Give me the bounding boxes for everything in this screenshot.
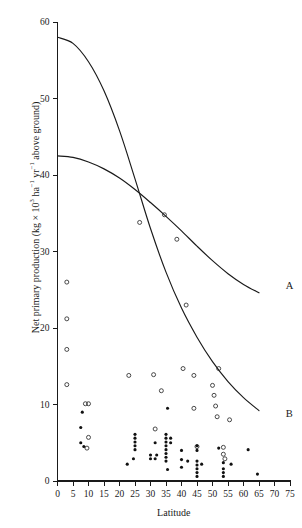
data-point-filled: [149, 457, 152, 460]
y-tick-label-30: 30: [40, 247, 50, 257]
fitted-curve-b: [58, 37, 260, 410]
figure-container: 0102030405060051015202530354045505560657…: [0, 0, 302, 528]
data-point-filled: [195, 475, 198, 478]
data-point-filled: [222, 471, 225, 474]
data-point-open: [214, 404, 218, 408]
y-tick-label-20: 20: [40, 323, 50, 333]
data-point-filled: [133, 440, 136, 443]
data-point-filled: [247, 448, 250, 451]
x-tick-label-15: 15: [99, 489, 109, 499]
data-point-filled: [169, 437, 172, 440]
data-point-filled: [164, 440, 167, 443]
data-point-filled: [195, 449, 198, 452]
chart-canvas: 0102030405060051015202530354045505560657…: [0, 0, 302, 528]
data-point-filled: [133, 437, 136, 440]
y-tick-label-0: 0: [45, 476, 50, 486]
data-point-filled: [195, 444, 198, 447]
data-point-filled: [164, 456, 167, 459]
data-point-open: [65, 317, 69, 321]
data-point-filled: [222, 461, 225, 464]
x-tick-label-65: 65: [254, 489, 264, 499]
x-tick-label-60: 60: [239, 489, 249, 499]
data-point-filled: [133, 433, 136, 436]
data-point-open: [153, 427, 157, 431]
fitted-curve-a: [58, 156, 260, 293]
x-tick-label-10: 10: [84, 489, 94, 499]
x-tick-label-30: 30: [146, 489, 156, 499]
data-point-filled: [166, 468, 169, 471]
x-tick-label-50: 50: [208, 489, 218, 499]
data-points-group: [65, 213, 259, 478]
data-point-open: [215, 415, 219, 419]
y-axis-title-mid-2: yr: [30, 169, 41, 180]
x-tick-label-5: 5: [71, 489, 76, 499]
data-point-filled: [222, 475, 225, 478]
data-point-open: [65, 280, 69, 284]
x-tick-label-20: 20: [115, 489, 125, 499]
data-point-filled: [186, 460, 189, 463]
x-tick-label-0: 0: [55, 489, 60, 499]
data-point-filled: [79, 426, 82, 429]
data-point-filled: [81, 411, 84, 414]
data-point-open: [212, 393, 216, 397]
data-point-filled: [164, 448, 167, 451]
curve-label-b: B: [286, 408, 293, 419]
data-point-filled: [133, 444, 136, 447]
data-point-filled: [200, 463, 203, 466]
y-tick-label-10: 10: [40, 400, 50, 410]
data-point-filled: [149, 453, 152, 456]
data-point-open: [65, 347, 69, 351]
x-tick-label-75: 75: [285, 489, 295, 499]
data-point-filled: [180, 466, 183, 469]
data-point-filled: [166, 407, 169, 410]
data-point-filled: [230, 463, 233, 466]
data-point-filled: [256, 473, 259, 476]
curves-group: [58, 37, 260, 410]
data-point-filled: [195, 463, 198, 466]
data-point-open: [184, 303, 188, 307]
chart-labels-group: LatitudeAB: [157, 280, 294, 518]
data-point-open: [65, 383, 69, 387]
data-point-open: [152, 373, 156, 377]
x-tick-label-25: 25: [130, 489, 140, 499]
x-tick-label-40: 40: [177, 489, 187, 499]
data-point-open: [228, 418, 232, 422]
data-point-open: [211, 383, 215, 387]
y-axis-title-prefix: Net primary production (kg × 10: [30, 202, 41, 333]
data-point-filled: [222, 467, 225, 470]
data-point-filled: [169, 441, 172, 444]
data-point-filled: [79, 441, 82, 444]
data-point-open: [87, 435, 91, 439]
data-point-open: [181, 367, 185, 371]
data-point-filled: [195, 460, 198, 463]
x-tick-label-55: 55: [223, 489, 233, 499]
data-point-filled: [164, 460, 167, 463]
data-point-filled: [82, 445, 85, 448]
y-axis-title-exponent-3: −1: [28, 162, 35, 169]
data-point-filled: [154, 457, 157, 460]
x-axis-title: Latitude: [157, 507, 191, 518]
data-point-open: [85, 446, 89, 450]
y-tick-label-40: 40: [40, 170, 50, 180]
data-point-filled: [195, 471, 198, 474]
data-point-filled: [164, 437, 167, 440]
data-point-open: [221, 445, 225, 449]
data-point-filled: [180, 458, 183, 461]
data-point-filled: [133, 448, 136, 451]
y-tick-label-50: 50: [40, 94, 50, 104]
y-axis-title-exponent-2: −1: [28, 180, 35, 187]
y-axis-title-exponent-1: 3: [28, 199, 35, 202]
curve-label-a: A: [286, 280, 294, 291]
data-point-filled: [132, 457, 135, 460]
data-point-open: [223, 457, 227, 461]
data-point-filled: [154, 441, 157, 444]
data-point-filled: [217, 447, 220, 450]
data-point-open: [221, 452, 225, 456]
y-axis-title-mid: ha: [30, 187, 41, 199]
data-point-open: [159, 389, 163, 393]
data-point-open: [192, 406, 196, 410]
data-point-filled: [180, 449, 183, 452]
y-axis-title: Net primary production (kg × 103 ha−1 yr…: [30, 68, 41, 368]
data-point-open: [127, 373, 131, 377]
data-point-filled: [155, 453, 158, 456]
